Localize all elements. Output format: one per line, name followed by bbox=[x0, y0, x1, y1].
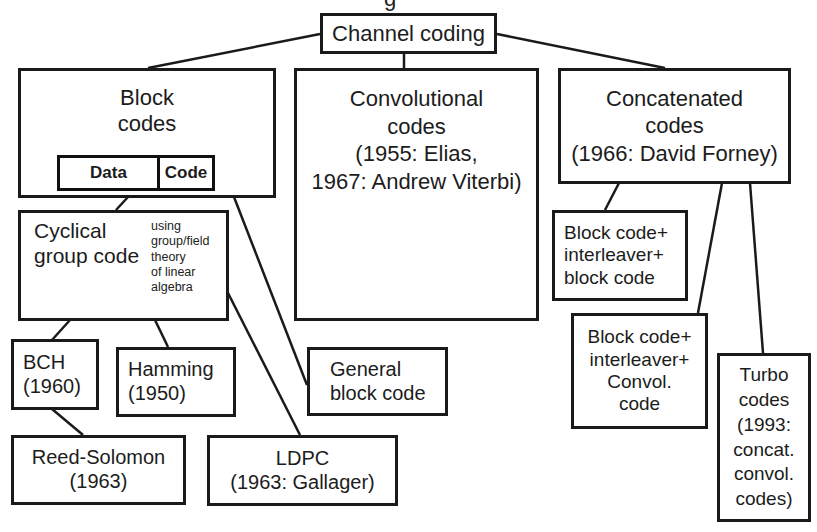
node-label-line: group code bbox=[34, 243, 139, 268]
node-label-line: Block code+ bbox=[587, 326, 691, 348]
node-label-line: (1955: Elias, bbox=[355, 140, 477, 168]
node-label-line: concat. bbox=[733, 438, 794, 463]
node-label-line: Concatenated bbox=[606, 85, 743, 113]
edge-bch-reedsolomon bbox=[52, 409, 83, 435]
cyclical-note: using group/field theory of linear algeb… bbox=[151, 219, 209, 295]
node-label-line: Cyclical bbox=[34, 218, 139, 243]
data-code-strip: Data Code bbox=[57, 155, 215, 191]
node-label-line: Hamming bbox=[128, 358, 214, 382]
node-label-line: BCH bbox=[23, 351, 65, 375]
node-label-line: General bbox=[330, 358, 401, 382]
node-label-line: LDPC bbox=[276, 447, 329, 471]
node-label-line: codes bbox=[645, 112, 704, 140]
node-ldpc: LDPC (1963: Gallager) bbox=[207, 435, 398, 506]
node-concatenated-codes: Concatenated codes (1966: David Forney) bbox=[558, 68, 791, 184]
node-label-line: Convolutional bbox=[350, 85, 483, 113]
node-reed-solomon: Reed-Solomon (1963) bbox=[11, 435, 186, 505]
edge-concat-bib bbox=[605, 183, 619, 210]
note-line: algebra bbox=[151, 280, 209, 295]
node-label-line: codes bbox=[387, 113, 446, 141]
note-line: theory bbox=[151, 250, 209, 265]
node-hamming: Hamming (1950) bbox=[116, 347, 236, 417]
node-label-line: block code bbox=[330, 382, 426, 406]
node-label-line: (1993: bbox=[737, 413, 791, 438]
code-segment: Code bbox=[160, 158, 212, 188]
node-label-line: codes) bbox=[735, 487, 792, 512]
title-fragment: g bbox=[384, 0, 396, 12]
edge-concat-turbo bbox=[750, 183, 763, 353]
note-line: of linear bbox=[151, 265, 209, 280]
edge-concat-bic bbox=[698, 183, 722, 313]
node-label-line: Turbo bbox=[740, 363, 789, 388]
node-label-line: Block bbox=[120, 85, 174, 111]
note-line: group/field bbox=[151, 234, 209, 249]
node-label-line: codes bbox=[739, 388, 790, 413]
node-label-line: convol. bbox=[734, 462, 794, 487]
node-label-line: Convol. bbox=[607, 371, 671, 393]
edge-block-cyclical bbox=[116, 197, 128, 210]
node-block-interleaver-block: Block code+ interleaver+ block code bbox=[552, 210, 688, 301]
node-label-line: codes bbox=[118, 111, 177, 137]
node-label-line: Block code+ bbox=[564, 222, 668, 244]
node-label-line: (1963) bbox=[70, 470, 128, 494]
edge-root-block bbox=[148, 34, 320, 68]
node-label-line: interleaver+ bbox=[590, 349, 690, 371]
node-label-line: block code bbox=[564, 267, 655, 289]
node-convolutional-codes: Convolutional codes (1955: Elias, 1967: … bbox=[294, 68, 539, 321]
node-label-line: 1967: Andrew Viterbi) bbox=[312, 168, 522, 196]
edge-cyclical-bch bbox=[52, 320, 70, 340]
edge-root-concatenated bbox=[497, 34, 665, 68]
edge-cyclical-hamming bbox=[155, 320, 168, 347]
node-label-line: (1966: David Forney) bbox=[571, 140, 778, 168]
data-segment: Data bbox=[60, 158, 160, 188]
edge-cyclical-ldpc bbox=[228, 293, 300, 435]
node-general-block-code: General block code bbox=[307, 347, 448, 416]
node-label-line: Reed-Solomon bbox=[32, 446, 165, 470]
node-label-line: (1960) bbox=[23, 375, 81, 399]
note-line: using bbox=[151, 219, 209, 234]
node-label-line: (1963: Gallager) bbox=[230, 471, 375, 495]
node-label: Channel coding bbox=[332, 21, 485, 47]
node-channel-coding: Channel coding bbox=[320, 13, 497, 54]
node-label-line: (1950) bbox=[128, 382, 186, 406]
node-bch: BCH (1960) bbox=[11, 339, 99, 410]
node-label-line: interleaver+ bbox=[564, 244, 664, 266]
node-turbo-codes: Turbo codes (1993: concat. convol. codes… bbox=[717, 353, 811, 522]
cyclical-label: Cyclical group code bbox=[34, 218, 139, 268]
node-block-interleaver-convol: Block code+ interleaver+ Convol. code bbox=[571, 313, 708, 429]
node-label-line: code bbox=[619, 393, 660, 415]
